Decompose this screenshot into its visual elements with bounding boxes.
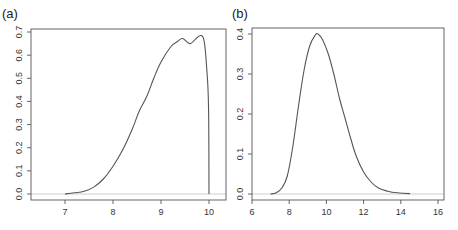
x-tick-label: 8 [110, 207, 115, 217]
y-tick-label: 0.4 [14, 95, 24, 108]
y-tick-label: 0.2 [14, 141, 24, 154]
x-tick-label: 9 [158, 207, 163, 217]
x-tick-label: 12 [359, 207, 369, 217]
y-tick-label: 0.3 [235, 68, 245, 81]
y-tick-label: 0.2 [235, 108, 245, 121]
y-tick-label: 0.0 [235, 188, 245, 201]
density-curve [65, 35, 209, 194]
density-curve [271, 33, 411, 194]
x-tick-label: 14 [396, 207, 406, 217]
x-tick-label: 10 [204, 207, 214, 217]
y-tick-label: 0.5 [14, 72, 24, 85]
x-tick-label: 7 [62, 207, 67, 217]
y-tick-label: 0.1 [235, 148, 245, 161]
y-tick-label: 0.0 [14, 188, 24, 201]
panel-b-label: (b) [232, 6, 248, 21]
panel-b-density-plot: (b) 68101214160.00.10.20.30.4 [232, 6, 444, 217]
y-tick-label: 0.4 [235, 28, 245, 41]
x-tick-label: 10 [321, 207, 331, 217]
panel-a-density-plot: (a) 789100.00.10.20.30.40.50.60.7 [2, 6, 226, 217]
density-plots: (a) 789100.00.10.20.30.40.50.60.7 (b) 68… [0, 0, 458, 230]
y-tick-label: 0.6 [14, 49, 24, 62]
x-tick-label: 8 [287, 207, 292, 217]
plot-frame [31, 29, 226, 200]
plot-frame [252, 28, 444, 200]
panel-a-label: (a) [2, 6, 18, 21]
y-tick-label: 0.3 [14, 118, 24, 131]
x-tick-label: 6 [249, 207, 254, 217]
y-tick-label: 0.7 [14, 26, 24, 39]
y-tick-label: 0.1 [14, 165, 24, 178]
x-tick-label: 16 [433, 207, 443, 217]
